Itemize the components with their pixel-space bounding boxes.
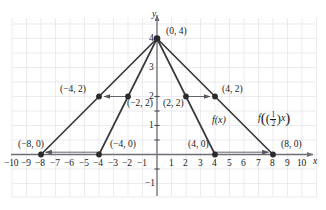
x-tick-neg1: −1 [137,159,147,169]
inner-paren-open: ( [266,114,270,125]
y-tick-4: 4 [149,34,154,44]
x-tick-1: 1 [169,159,174,169]
x-tick-7: 7 [256,159,261,169]
point-4-0 [212,152,218,158]
point-8-0 [270,152,276,158]
function-label-f-half-x: f((12)x) [258,111,290,127]
x-tick-neg10: −10 [4,159,18,169]
y-tick-1: 1 [149,121,154,131]
y-tick-neg1: −1 [145,179,155,189]
x-tick-neg2: −2 [122,159,132,169]
x-tick-8: 8 [270,159,275,169]
point-label-8-0: (8, 0) [281,140,302,150]
point-label-neg4-2: (−4, 2) [60,85,86,95]
x-tick-neg5: −5 [79,159,89,169]
x-tick-neg6: −6 [64,159,74,169]
fraction-denominator: 2 [270,120,276,128]
point-label-4-2: (4, 2) [222,85,243,95]
point-0-4 [154,35,161,42]
x-tick-3: 3 [198,159,203,169]
point-label-2-2: (2, 2) [163,99,184,109]
x-tick-10: 10 [297,159,306,169]
y-tick-3: 3 [149,63,154,73]
x-axis-label: x [313,157,317,167]
x-tick-neg9: −9 [21,159,31,169]
point-4-2 [212,94,218,100]
outer-paren-close: ) [285,112,290,126]
point-label-neg8-0: (−8, 0) [18,140,44,150]
point-neg4-0 [96,152,102,158]
point-neg4-2 [96,94,102,100]
x-tick-neg3: −3 [108,159,118,169]
point-label-4-0: (4, 0) [188,140,209,150]
point-label-0-4: (0, 4) [166,27,187,37]
point-label-neg2-2: (−2, 2) [127,99,153,109]
one-half-fraction: 12 [270,111,276,127]
x-tick-6: 6 [241,159,246,169]
x-tick-neg7: −7 [50,159,60,169]
x-tick-2: 2 [183,159,188,169]
point-neg8-0 [38,152,44,158]
x-tick-9: 9 [285,159,290,169]
point-label-neg4-0: (−4, 0) [110,140,136,150]
x-tick-neg4: −4 [93,159,103,169]
x-tick-5: 5 [227,159,232,169]
x-tick-4: 4 [212,159,217,169]
function-label-f-x: f(x) [212,115,226,125]
x-tick-neg8: −8 [35,159,45,169]
graph-figure: y x 4 3 2 1 −1 −10 −9 −8 −7 −6 −5 −4 −3 … [0,0,326,210]
y-axis-label: y [152,10,156,20]
